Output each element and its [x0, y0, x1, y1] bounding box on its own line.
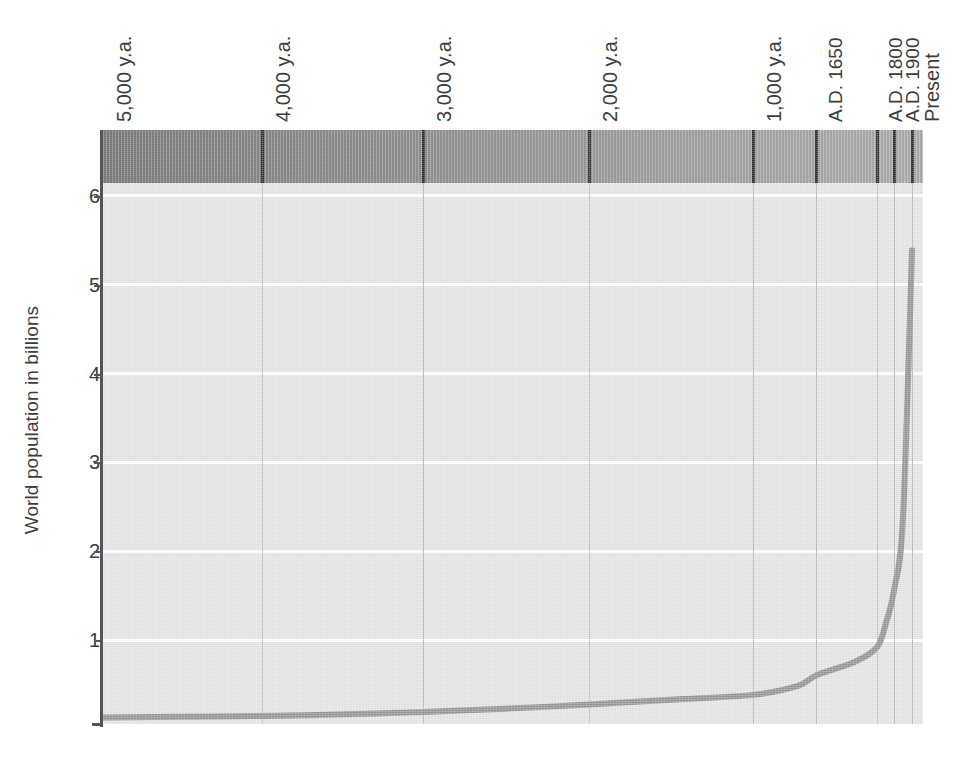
population-growth-chart: World population in billions 6 5 4 3 2 1… [0, 0, 954, 772]
gridline-y-4 [103, 372, 923, 375]
x-tick-label-4000ya: 4,000 y.a. [273, 36, 293, 122]
y-axis-ticks: 6 5 4 3 2 1 [50, 0, 100, 772]
band-tick-ad1900 [893, 130, 896, 183]
x-tick-label-ad1650: A.D. 1650 [826, 38, 845, 123]
gridline-x-1000ya [753, 183, 754, 724]
x-tick-label-ad1900: A.D. 1900 [903, 38, 922, 123]
gridline-y-1 [103, 639, 923, 642]
x-tick-label-1000ya: 1,000 y.a. [764, 36, 784, 122]
gridline-x-ad1650 [816, 183, 817, 724]
band-tick-2000ya [588, 130, 591, 183]
band-tick-1000ya [752, 130, 755, 183]
plot-area [103, 130, 923, 724]
band-tick-3000ya [422, 130, 425, 183]
x-tick-label-2000ya: 2,000 y.a. [600, 36, 620, 122]
population-curve [103, 130, 923, 724]
gridline-x-2000ya [589, 183, 590, 724]
era-band [103, 130, 923, 183]
band-tick-4000ya [261, 130, 264, 183]
band-tick-ad1650 [815, 130, 818, 183]
x-tick-label-present: Present [922, 53, 942, 122]
gridline-x-ad1800 [877, 183, 878, 724]
gridline-x-ad1900 [894, 183, 895, 724]
gridline-x-4000ya [262, 183, 263, 724]
band-tick-ad1800 [876, 130, 879, 183]
x-tick-label-3000ya: 3,000 y.a. [434, 36, 454, 122]
x-axis-origin-tick [92, 723, 103, 726]
x-tick-label-5000ya: 5,000 y.a. [114, 36, 134, 122]
gridline-y-5 [103, 283, 923, 286]
gridline-y-3 [103, 461, 923, 464]
gridline-y-6 [103, 194, 923, 197]
y-axis-title: World population in billions [14, 200, 50, 640]
gridline-x-present [912, 183, 913, 724]
era-band-texture [103, 130, 923, 183]
gridline-x-3000ya [423, 183, 424, 724]
gridline-y-2 [103, 550, 923, 553]
population-curve-path [103, 250, 912, 717]
band-tick-present [911, 130, 914, 183]
